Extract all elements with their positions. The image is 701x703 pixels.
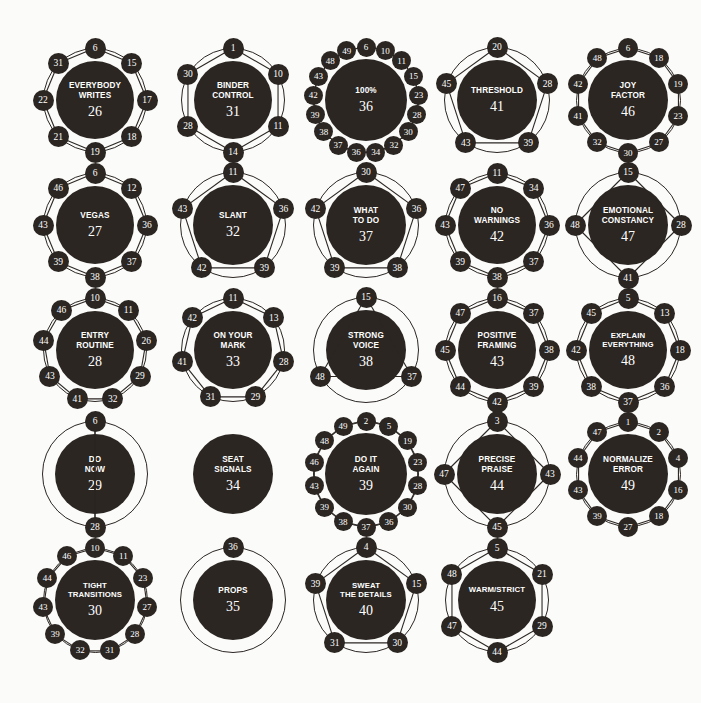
satellite-node[interactable]: 39 <box>315 498 334 517</box>
satellite-node[interactable]: 12 <box>121 178 142 199</box>
satellite-node[interactable]: 11 <box>223 288 244 309</box>
satellite-node[interactable]: 23 <box>133 568 153 588</box>
satellite-node[interactable]: 48 <box>310 366 331 387</box>
satellite-node[interactable]: 36 <box>347 143 366 162</box>
satellite-node[interactable]: 31 <box>48 53 69 74</box>
satellite-node[interactable]: 46 <box>57 546 77 566</box>
satellite-node[interactable]: 11 <box>118 300 139 321</box>
satellite-node[interactable]: 45 <box>435 340 456 361</box>
satellite-node[interactable]: 19 <box>85 142 106 163</box>
satellite-node[interactable]: 41 <box>618 268 639 289</box>
satellite-node[interactable]: 48 <box>587 48 607 68</box>
satellite-node[interactable]: 45 <box>581 303 602 324</box>
satellite-node[interactable]: 28 <box>177 116 198 137</box>
satellite-node[interactable]: 34 <box>366 143 385 162</box>
satellite-node[interactable]: 10 <box>85 288 106 309</box>
satellite-node[interactable]: 42 <box>182 307 203 328</box>
satellite-node[interactable]: 13 <box>654 303 675 324</box>
satellite-node[interactable]: 47 <box>441 616 462 637</box>
satellite-node[interactable]: 43 <box>39 366 60 387</box>
satellite-node[interactable]: 37 <box>357 518 376 537</box>
satellite-node[interactable]: 36 <box>223 537 244 558</box>
satellite-node[interactable]: 39 <box>254 257 275 278</box>
satellite-node[interactable]: 44 <box>568 448 588 468</box>
satellite-node[interactable]: 44 <box>487 642 508 663</box>
satellite-node[interactable]: 6 <box>618 38 638 58</box>
satellite-node[interactable]: 38 <box>85 267 106 288</box>
satellite-node[interactable]: 15 <box>404 67 423 86</box>
satellite-node[interactable]: 43 <box>540 464 561 485</box>
satellite-node[interactable]: 38 <box>539 340 560 361</box>
satellite-node[interactable]: 42 <box>304 86 323 105</box>
satellite-node[interactable]: 44 <box>450 376 471 397</box>
satellite-node[interactable]: 5 <box>618 288 639 309</box>
satellite-node[interactable]: 39 <box>518 132 539 153</box>
satellite-node[interactable]: 18 <box>670 340 691 361</box>
satellite-node[interactable]: 32 <box>384 136 403 155</box>
satellite-node[interactable]: 18 <box>649 48 669 68</box>
satellite-node[interactable]: 43 <box>33 215 54 236</box>
satellite-node[interactable]: 42 <box>568 74 588 94</box>
satellite-node[interactable]: 21 <box>532 564 553 585</box>
satellite-node[interactable]: 46 <box>48 178 69 199</box>
satellite-node[interactable]: 22 <box>33 90 54 111</box>
satellite-node[interactable]: 28 <box>537 73 558 94</box>
satellite-node[interactable]: 36 <box>539 215 560 236</box>
satellite-node[interactable]: 42 <box>566 340 587 361</box>
satellite-node[interactable]: 30 <box>398 498 417 517</box>
satellite-node[interactable]: 23 <box>408 453 427 472</box>
satellite-node[interactable]: 2 <box>357 412 376 431</box>
satellite-node[interactable]: 1 <box>618 412 638 432</box>
satellite-node[interactable]: 38 <box>387 257 408 278</box>
satellite-node[interactable]: 46 <box>305 453 324 472</box>
satellite-node[interactable]: 38 <box>487 267 508 288</box>
satellite-node[interactable]: 49 <box>334 417 353 436</box>
satellite-node[interactable]: 36 <box>273 198 294 219</box>
satellite-node[interactable]: 6 <box>85 38 106 59</box>
satellite-node[interactable]: 15 <box>618 162 639 183</box>
satellite-node[interactable]: 43 <box>309 67 328 86</box>
satellite-node[interactable]: 4 <box>668 448 688 468</box>
satellite-node[interactable]: 28 <box>125 624 145 644</box>
satellite-node[interactable]: 11 <box>268 116 289 137</box>
satellite-node[interactable]: 23 <box>409 86 428 105</box>
satellite-node[interactable]: 47 <box>450 303 471 324</box>
satellite-node[interactable]: 6 <box>85 163 106 184</box>
satellite-node[interactable]: 10 <box>268 64 289 85</box>
satellite-node[interactable]: 28 <box>85 517 106 538</box>
satellite-node[interactable]: 6 <box>85 411 106 432</box>
satellite-node[interactable]: 27 <box>618 517 638 537</box>
satellite-node[interactable]: 34 <box>523 178 544 199</box>
satellite-node[interactable]: 47 <box>450 178 471 199</box>
satellite-node[interactable]: 15 <box>121 53 142 74</box>
satellite-node[interactable]: 2 <box>649 422 669 442</box>
satellite-node[interactable]: 38 <box>334 512 353 531</box>
satellite-node[interactable]: 28 <box>671 215 692 236</box>
satellite-node[interactable]: 5 <box>487 538 508 559</box>
satellite-node[interactable]: 29 <box>532 616 553 637</box>
satellite-node[interactable]: 30 <box>618 143 638 163</box>
satellite-node[interactable]: 29 <box>130 366 151 387</box>
satellite-node[interactable]: 6 <box>357 38 376 57</box>
satellite-node[interactable]: 15 <box>406 573 427 594</box>
satellite-node[interactable]: 16 <box>487 288 508 309</box>
satellite-node[interactable]: 47 <box>434 464 455 485</box>
satellite-node[interactable]: 10 <box>85 538 105 558</box>
satellite-node[interactable]: 30 <box>356 162 377 183</box>
satellite-node[interactable]: 15 <box>356 287 377 308</box>
satellite-node[interactable]: 42 <box>487 392 508 413</box>
satellite-node[interactable]: 11 <box>487 163 508 184</box>
satellite-node[interactable]: 36 <box>137 215 158 236</box>
satellite-node[interactable]: 21 <box>48 126 69 147</box>
satellite-node[interactable]: 37 <box>523 303 544 324</box>
satellite-node[interactable]: 36 <box>406 198 427 219</box>
satellite-node[interactable]: 46 <box>51 300 72 321</box>
satellite-node[interactable]: 1 <box>223 38 244 59</box>
satellite-node[interactable]: 48 <box>565 215 586 236</box>
satellite-node[interactable]: 19 <box>668 74 688 94</box>
satellite-node[interactable]: 39 <box>450 251 471 272</box>
satellite-node[interactable]: 43 <box>435 215 456 236</box>
satellite-node[interactable]: 14 <box>223 142 244 163</box>
satellite-node[interactable]: 41 <box>172 351 193 372</box>
satellite-node[interactable]: 11 <box>223 162 244 183</box>
